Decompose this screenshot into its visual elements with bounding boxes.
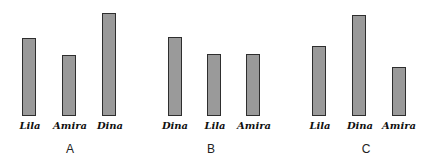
bar-a-1 (22, 38, 36, 116)
category-label: Lila (195, 120, 235, 131)
category-label: Dina (155, 120, 195, 131)
category-label: Amira (50, 120, 90, 131)
category-label: Dina (90, 120, 130, 131)
category-label: Dina (340, 120, 380, 131)
bar-c-1 (312, 46, 326, 116)
chart-panel-a: Lila Amira Dina A (0, 0, 145, 162)
category-label: Lila (300, 120, 340, 131)
panel-label: A (60, 142, 80, 156)
bar-c-2 (352, 15, 366, 116)
panel-label: C (356, 142, 376, 156)
bar-b-1 (168, 37, 182, 116)
panel-label: B (201, 142, 221, 156)
chart-panel-c: Lila Dina Amira C (290, 0, 435, 162)
category-label: Lila (10, 120, 50, 131)
bar-b-2 (207, 54, 221, 116)
category-label: Amira (234, 120, 274, 131)
category-label: Amira (379, 120, 419, 131)
bar-a-3 (102, 13, 116, 116)
chart-panel-b: Dina Lila Amira B (145, 0, 290, 162)
bar-c-3 (392, 67, 406, 116)
bar-b-3 (246, 54, 260, 116)
bar-a-2 (62, 55, 76, 116)
